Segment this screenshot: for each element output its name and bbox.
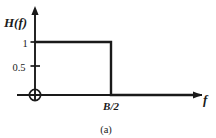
y-axis-label: H(f): [3, 15, 27, 30]
filter-response-plot: H(f) f 1 0.5 B/2 (a): [0, 0, 216, 138]
x-tick-label-half-b: B/2: [102, 100, 119, 112]
y-tick-label-1: 1: [22, 38, 27, 49]
figure-caption: (a): [100, 124, 112, 136]
y-tick-label-0point5: 0.5: [12, 62, 25, 73]
plot-background: [0, 0, 216, 138]
figure-container: H(f) f 1 0.5 B/2 (a): [0, 0, 216, 138]
